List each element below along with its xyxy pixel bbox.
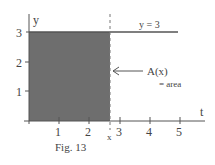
x-tick-label-4: 4 (146, 125, 152, 139)
x-axis-label: t (200, 105, 204, 119)
line-label: y = 3 (139, 19, 160, 30)
y-axis-label: y (33, 13, 39, 27)
x-tick-label-2: 2 (85, 125, 91, 139)
annotation-sublabel: = area (159, 79, 181, 89)
y-tick-label-3: 3 (16, 26, 22, 40)
x-marker-label: x (107, 132, 112, 142)
x-tick-label-1: 1 (55, 125, 61, 139)
y-tick-label-1: 1 (16, 85, 22, 99)
annotation-label: A(x) (147, 65, 168, 78)
shaded-area-region (29, 32, 110, 121)
y-tick-label-2: 2 (16, 56, 22, 70)
x-tick-label-3: 3 (116, 125, 122, 139)
figure-caption: Fig. 13 (55, 141, 87, 153)
x-tick-label-5: 5 (176, 125, 182, 139)
area-diagram: y t 3 2 1 1 2 3 4 5 x y = 3 A(x) = area … (0, 0, 215, 165)
